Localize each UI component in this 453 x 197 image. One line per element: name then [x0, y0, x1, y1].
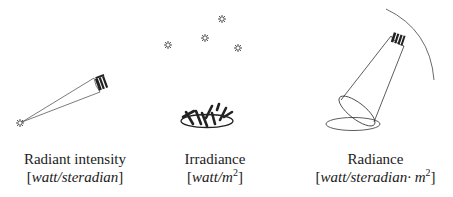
radiance-figure	[326, 9, 434, 131]
sun-icon	[218, 15, 226, 23]
irradiance-figure	[164, 15, 242, 128]
sensor-icon	[94, 74, 108, 91]
caption-title: Radiant intensity	[4, 150, 146, 168]
sun-icon	[234, 44, 242, 52]
radiant-intensity-caption: Radiant intensity [watt/steradian]	[4, 150, 146, 186]
sphere-arc-icon	[386, 9, 434, 80]
sun-icon	[164, 41, 172, 49]
sun-icon	[201, 34, 209, 42]
sensor-icon	[183, 104, 232, 126]
light-cone	[326, 36, 404, 131]
sensor-icon	[391, 32, 406, 45]
radiant-intensity-figure	[16, 74, 108, 127]
radiance-caption: Radiance [watt/steradian· m2]	[298, 150, 453, 186]
caption-title: Radiance	[298, 150, 453, 168]
caption-unit: [watt/m2]	[150, 168, 280, 186]
caption-unit: [watt/steradian]	[4, 168, 146, 186]
light-cone	[22, 78, 100, 122]
irradiance-caption: Irradiance [watt/m2]	[150, 150, 280, 186]
caption-unit: [watt/steradian· m2]	[298, 168, 453, 186]
sun-icon	[16, 119, 24, 127]
caption-title: Irradiance	[150, 150, 280, 168]
